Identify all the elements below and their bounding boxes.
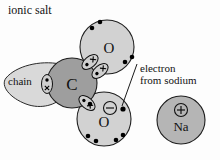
electron-annotation-line-2: from sodium: [140, 75, 197, 87]
annotation-leader-line: [122, 64, 137, 106]
bond-chain-carbon: [42, 75, 53, 94]
diagram-title: ionic salt: [8, 4, 52, 17]
sodium-electron-icon: [120, 106, 125, 111]
oxygen-top-label: O: [104, 40, 115, 56]
chain-label: chain: [8, 76, 32, 88]
electron-annotation-line-1: electron: [140, 63, 197, 75]
carbon-label: C: [66, 75, 77, 94]
oxygen-bottom-label: O: [99, 114, 110, 130]
chemistry-diagram: C O O Na ionic salt chain electron from …: [0, 0, 220, 160]
electron-annotation: electron from sodium: [140, 63, 197, 86]
sodium-label: Na: [173, 119, 188, 134]
